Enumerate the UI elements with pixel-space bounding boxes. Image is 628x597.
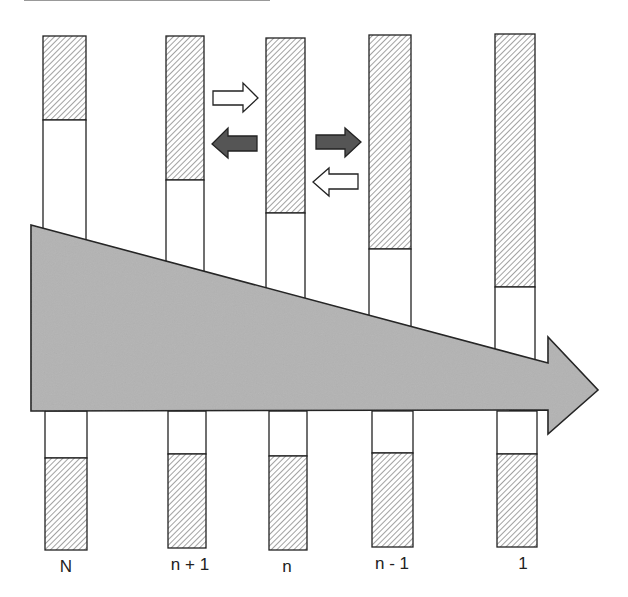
column-n-minus-1 [369, 35, 413, 547]
top-hatch-segment [266, 38, 305, 213]
light-left-arrow-icon [313, 168, 358, 196]
bottom-empty-segment [45, 411, 87, 458]
column-label-n-minus-1: n - 1 [375, 554, 409, 574]
bottom-hatch-segment [45, 458, 87, 550]
bottom-empty-segment [372, 411, 413, 453]
column-label-n: n [282, 557, 291, 577]
column-1 [495, 34, 537, 547]
top-hatch-segment [369, 35, 411, 249]
column-label-N: N [60, 557, 72, 577]
top-hatch-segment [166, 36, 204, 180]
bottom-empty-segment [269, 411, 307, 456]
bottom-empty-segment [497, 411, 537, 454]
bottom-hatch-segment [372, 453, 413, 547]
top-hatch-segment [43, 36, 86, 120]
top-hatch-segment [495, 34, 535, 287]
column-label-n-plus-1: n + 1 [171, 555, 209, 575]
bottom-hatch-segment [497, 454, 537, 547]
light-right-arrow-icon [213, 83, 258, 112]
dark-left-arrow-icon [212, 128, 257, 158]
column-label-1: 1 [518, 554, 527, 574]
bottom-empty-segment [168, 411, 206, 454]
cascade-diagram [0, 0, 628, 597]
bottom-hatch-segment [168, 454, 206, 548]
bottom-hatch-segment [269, 456, 307, 550]
dark-right-arrow-icon [316, 128, 361, 157]
